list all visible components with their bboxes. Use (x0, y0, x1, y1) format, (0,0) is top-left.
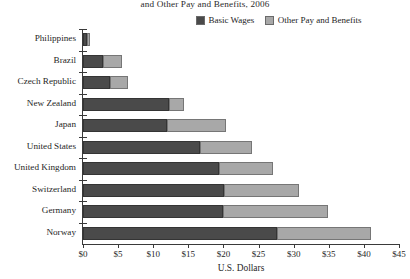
y-axis-tick (79, 201, 87, 202)
x-axis-tick (118, 244, 119, 248)
legend-label-basic-wages: Basic Wages (209, 15, 255, 25)
legend-swatch-other-pay-and-benefits (265, 16, 274, 25)
x-axis-tick (223, 244, 224, 248)
x-axis-tick (364, 244, 365, 248)
category-label: Brazil (54, 55, 76, 65)
y-axis-tick (79, 158, 87, 159)
y-axis-tick (79, 223, 87, 224)
bar-segment-other-pay-and-benefits (87, 33, 90, 46)
x-axis-tick (188, 244, 189, 248)
bar-segment-other-pay-and-benefits (200, 141, 252, 154)
x-axis-tick-label: $5 (114, 249, 123, 259)
bar-segment-basic-wages (83, 184, 224, 197)
bar-segment-basic-wages (83, 227, 277, 240)
bar-segment-other-pay-and-benefits (277, 227, 371, 240)
y-axis-tick (79, 72, 87, 73)
x-axis-tick (329, 244, 330, 248)
category-label: Norway (46, 227, 76, 237)
category-label: Germany (42, 205, 76, 215)
x-axis-title: U.S. Dollars (83, 263, 399, 273)
y-axis-tick (79, 94, 87, 95)
bar-segment-other-pay-and-benefits (110, 76, 128, 89)
bar-segment-other-pay-and-benefits (169, 98, 184, 111)
x-axis-tick-label: $30 (287, 249, 301, 259)
bar-segment-basic-wages (83, 76, 110, 89)
bar-row: Norway (83, 223, 399, 245)
legend-label-other-pay-and-benefits: Other Pay and Benefits (278, 15, 362, 25)
bar-row: Philippines (83, 29, 399, 51)
bar-row: New Zealand (83, 94, 399, 116)
x-axis-tick (294, 244, 295, 248)
y-axis-tick (79, 115, 87, 116)
chart-title: and Other Pay and Benefits, 2006 (0, 0, 410, 9)
y-axis-tick (79, 29, 87, 30)
category-label: United Kingdom (14, 162, 76, 172)
x-axis-tick-label: $20 (217, 249, 231, 259)
bar-segment-basic-wages (83, 119, 167, 132)
x-axis-tick-label: $15 (182, 249, 196, 259)
bar-segment-basic-wages (83, 205, 223, 218)
x-axis-tick (83, 244, 84, 248)
bar-segment-basic-wages (83, 55, 103, 68)
x-axis-tick-label: $0 (79, 249, 88, 259)
x-axis-tick (153, 244, 154, 248)
bar-segment-basic-wages (83, 162, 219, 175)
category-label: Switzerland (32, 184, 76, 194)
bar-segment-basic-wages (83, 98, 169, 111)
legend-swatch-basic-wages (196, 16, 205, 25)
bar-segment-other-pay-and-benefits (224, 184, 298, 197)
category-label: New Zealand (27, 98, 76, 108)
bar-segment-other-pay-and-benefits (219, 162, 274, 175)
x-axis-tick-label: $25 (252, 249, 266, 259)
bar-segment-other-pay-and-benefits (167, 119, 225, 132)
bar-row: United States (83, 137, 399, 159)
x-axis-line (82, 244, 399, 245)
category-label: Japan (55, 119, 76, 129)
category-label: Philippines (35, 33, 76, 43)
bar-row: United Kingdom (83, 158, 399, 180)
y-axis-tick (79, 51, 87, 52)
x-axis-tick (399, 244, 400, 248)
x-axis-tick-label: $40 (357, 249, 371, 259)
x-axis-tick-label: $45 (392, 249, 406, 259)
bar-row: Japan (83, 115, 399, 137)
x-axis-tick (259, 244, 260, 248)
bar-segment-other-pay-and-benefits (223, 205, 328, 218)
category-label: United States (27, 141, 76, 151)
bar-row: Switzerland (83, 180, 399, 202)
category-label: Czech Republic (18, 76, 76, 86)
x-axis-tick-label: $10 (146, 249, 160, 259)
bar-row: Germany (83, 201, 399, 223)
bar-row: Brazil (83, 51, 399, 73)
bar-row: Czech Republic (83, 72, 399, 94)
legend-item-basic-wages: Basic Wages (196, 15, 254, 25)
chart-figure: and Other Pay and Benefits, 2006 Basic W… (0, 0, 410, 279)
y-axis-tick (79, 137, 87, 138)
x-axis-tick-label: $35 (322, 249, 336, 259)
bar-segment-basic-wages (83, 141, 200, 154)
bar-segment-other-pay-and-benefits (103, 55, 122, 68)
chart-legend: Basic Wages Other Pay and Benefits (196, 15, 362, 25)
legend-item-other-pay-and-benefits: Other Pay and Benefits (265, 15, 361, 25)
y-axis-tick (79, 180, 87, 181)
plot-area: PhilippinesBrazilCzech RepublicNew Zeala… (83, 29, 399, 244)
